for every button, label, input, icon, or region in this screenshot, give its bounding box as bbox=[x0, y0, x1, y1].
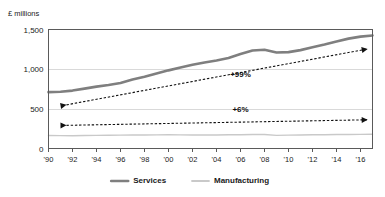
series-line-services bbox=[49, 35, 373, 92]
y-axis-tick-labels: 05001,0001,500 bbox=[23, 26, 44, 154]
x-tick-label-2004: '04 bbox=[212, 155, 222, 164]
trend-annotations: +99%+6% bbox=[230, 70, 251, 114]
trend-end-marker-manufacturing-trend bbox=[362, 117, 368, 123]
x-tick-label-2006: '06 bbox=[236, 155, 246, 164]
trend-line-services-trend bbox=[67, 49, 368, 105]
x-tick-label-1992: '92 bbox=[68, 155, 78, 164]
gridlines bbox=[49, 70, 373, 110]
x-tick-label-2000: '00 bbox=[164, 155, 174, 164]
trend-start-marker-manufacturing-trend bbox=[60, 122, 66, 128]
legend-label-manufacturing: Manufacturing bbox=[214, 176, 269, 185]
x-tick-label-1994: '94 bbox=[92, 155, 102, 164]
y-tick-label-1000: 1,000 bbox=[23, 65, 44, 74]
y-tick-label-0: 0 bbox=[39, 145, 44, 154]
annotation-manufacturing-trend: +6% bbox=[232, 105, 248, 114]
legend-label-services: Services bbox=[133, 176, 166, 185]
line-chart: £ millions 05001,0001,500 '90'92'94'96'9… bbox=[0, 0, 385, 197]
annotation-services-trend: +99% bbox=[230, 70, 251, 79]
plot-frame bbox=[49, 30, 373, 149]
series-line-manufacturing bbox=[49, 134, 373, 136]
x-tick-label-2008: '08 bbox=[260, 155, 270, 164]
trend-end-marker-services-trend bbox=[361, 46, 368, 53]
x-tick-label-2016: '16 bbox=[356, 155, 366, 164]
x-axis-ticks bbox=[49, 149, 361, 153]
x-tick-label-2002: '02 bbox=[188, 155, 198, 164]
x-tick-label-2012: '12 bbox=[308, 155, 318, 164]
chart-legend: ServicesManufacturing bbox=[111, 176, 269, 185]
chart-container: £ millions 05001,0001,500 '90'92'94'96'9… bbox=[0, 0, 385, 197]
y-axis-title: £ millions bbox=[8, 9, 40, 18]
y-tick-label-1500: 1,500 bbox=[23, 26, 44, 35]
trend-line-manufacturing-trend bbox=[67, 120, 368, 126]
x-tick-label-1996: '96 bbox=[116, 155, 126, 164]
x-tick-label-1998: '98 bbox=[140, 155, 150, 164]
y-tick-label-500: 500 bbox=[30, 105, 44, 114]
x-tick-label-2014: '14 bbox=[332, 155, 342, 164]
x-tick-label-1990: '90 bbox=[44, 155, 54, 164]
trend-lines bbox=[60, 46, 368, 128]
x-tick-label-2010: '10 bbox=[284, 155, 294, 164]
x-axis-tick-labels: '90'92'94'96'98'00'02'04'06'08'10'12'14'… bbox=[44, 155, 366, 164]
trend-start-marker-services-trend bbox=[60, 102, 67, 109]
